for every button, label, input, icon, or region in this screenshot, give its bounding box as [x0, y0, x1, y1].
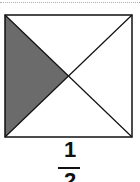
shaded-left-triangle [5, 15, 69, 137]
fraction-numerator: 1 [0, 139, 140, 161]
fraction-denominator: 2 [0, 170, 140, 182]
